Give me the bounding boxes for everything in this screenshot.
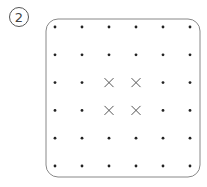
grid-dot — [81, 81, 84, 84]
grid-x-marks — [105, 78, 141, 115]
x-mark-icon — [132, 106, 141, 115]
grid-dot — [108, 137, 111, 140]
grid-dot — [54, 81, 57, 84]
grid-dot — [189, 53, 192, 56]
grid-dot — [54, 137, 57, 140]
grid-dot — [162, 81, 165, 84]
grid-dot — [54, 26, 57, 29]
grid-frame — [46, 19, 200, 177]
grid-dots — [54, 26, 192, 168]
grid-dot — [189, 26, 192, 29]
grid-dot — [162, 137, 165, 140]
grid-dot — [81, 26, 84, 29]
grid-dot — [189, 109, 192, 112]
grid-dot — [54, 109, 57, 112]
grid-dot — [81, 137, 84, 140]
grid-dot — [108, 26, 111, 29]
grid-dot — [189, 81, 192, 84]
x-mark-icon — [105, 78, 114, 87]
grid-dot — [135, 53, 138, 56]
grid-dot — [162, 26, 165, 29]
grid-dot — [81, 109, 84, 112]
grid-dot — [54, 53, 57, 56]
grid-dot — [189, 165, 192, 168]
grid-dot — [81, 165, 84, 168]
grid-dot — [54, 165, 57, 168]
grid-dot — [135, 165, 138, 168]
x-mark-icon — [132, 78, 141, 87]
grid-dot — [162, 165, 165, 168]
dot-grid-diagram — [0, 0, 207, 187]
grid-dot — [108, 165, 111, 168]
grid-dot — [135, 26, 138, 29]
grid-dot — [135, 137, 138, 140]
grid-dot — [108, 53, 111, 56]
grid-dot — [162, 109, 165, 112]
x-mark-icon — [105, 106, 114, 115]
grid-dot — [189, 137, 192, 140]
grid-dot — [81, 53, 84, 56]
grid-dot — [162, 53, 165, 56]
